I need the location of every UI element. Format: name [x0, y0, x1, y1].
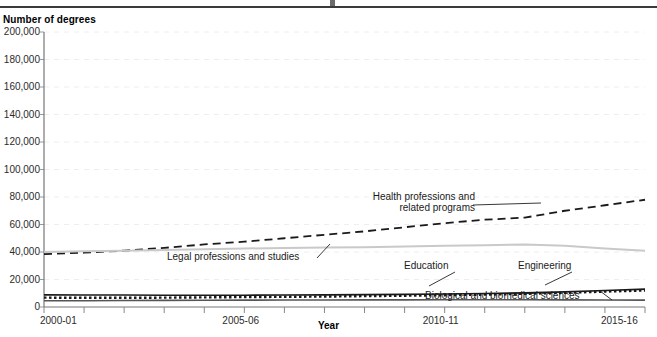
annotation-text-line: Biological and biomedical sciences	[425, 290, 580, 301]
annotation-education: Education	[404, 260, 448, 271]
annotation-legal-professions: Legal professions and studies	[167, 251, 299, 262]
annotation-text-line: Legal professions and studies	[167, 251, 299, 262]
annotation-text-line: Engineering	[518, 260, 571, 271]
annotation-health-professions: Health professions andrelated programs	[345, 191, 475, 213]
annotation-text-line: Education	[404, 260, 448, 271]
annotation-leader-line	[317, 244, 330, 258]
chart-plot-area: 200,000180,000160,000140,000120,000100,0…	[0, 0, 657, 337]
y-axis-tick-label: 80,000	[0, 191, 40, 202]
annotation-biological-sciences: Biological and biomedical sciences	[425, 290, 580, 301]
y-axis-tick-label: 0	[0, 301, 40, 312]
x-axis-title: Year	[0, 320, 657, 331]
annotation-leader-line	[545, 272, 572, 285]
annotation-text-line: related programs	[345, 202, 475, 213]
annotation-leader-line	[473, 203, 541, 205]
annotation-text-line: Health professions and	[345, 191, 475, 202]
y-axis-tick-label: 120,000	[0, 136, 40, 147]
y-axis-tick-label: 160,000	[0, 81, 40, 92]
y-axis-tick-label: 40,000	[0, 246, 40, 257]
y-axis-tick-label: 200,000	[0, 26, 40, 37]
series-line	[44, 244, 645, 252]
y-axis-tick-label: 20,000	[0, 274, 40, 285]
y-axis-tick-label: 60,000	[0, 219, 40, 230]
y-axis-tick-label: 180,000	[0, 54, 40, 65]
line-chart-svg	[0, 0, 657, 337]
annotation-leader-line	[429, 272, 455, 286]
y-axis-tick-label: 100,000	[0, 164, 40, 175]
y-axis-tick-label: 140,000	[0, 109, 40, 120]
annotation-engineering: Engineering	[518, 260, 571, 271]
